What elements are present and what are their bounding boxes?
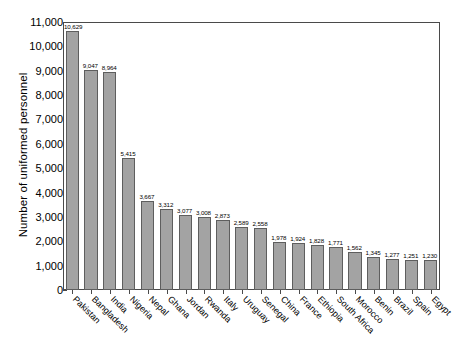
bar-value-label: 3,008 [196, 209, 211, 216]
bar[interactable] [424, 260, 437, 290]
bar-slot[interactable]: 2,873 [214, 22, 233, 290]
bar-slot[interactable]: 8,964 [101, 22, 120, 290]
bar-value-label: 3,667 [139, 193, 154, 200]
y-axis-tick-label: 4,000 [7, 187, 63, 199]
bar[interactable] [160, 209, 173, 290]
bar-value-label: 9,047 [83, 62, 98, 69]
bar-slot[interactable]: 1,978 [270, 22, 289, 290]
x-axis-category-label: Brazil [392, 294, 415, 317]
bar-slot[interactable]: 1,562 [346, 22, 365, 290]
x-axis-category-label-text: Brazil [392, 294, 415, 317]
bar-slot[interactable]: 3,077 [176, 22, 195, 290]
bar-slot[interactable]: 3,008 [195, 22, 214, 290]
bar-slot[interactable]: 1,230 [421, 22, 440, 290]
y-axis-tick-label: 7,000 [7, 113, 63, 125]
bar[interactable] [273, 242, 286, 290]
bar[interactable] [84, 70, 97, 290]
y-axis-tick-label: 6,000 [7, 138, 63, 150]
bar-slot[interactable]: 3,667 [138, 22, 157, 290]
x-axis-category-label: Spain [411, 294, 434, 317]
bar-value-label: 1,978 [271, 234, 286, 241]
y-axis-tick-label: 1,000 [7, 260, 63, 272]
bar-value-label: 10,629 [64, 23, 82, 30]
x-axis-category-labels: PakistanBangladeshIndiaNigeriaNepalGhana… [63, 294, 440, 352]
y-axis-tick-label: 2,000 [7, 235, 63, 247]
bar-value-label: 5,415 [121, 150, 136, 157]
bar[interactable] [141, 201, 154, 290]
bar-slot[interactable]: 1,924 [289, 22, 308, 290]
bar-chart: Number of uniformed personnel 01,0002,00… [0, 0, 458, 352]
y-axis-tick-label: 9,000 [7, 65, 63, 77]
bar-value-label: 2,873 [215, 212, 230, 219]
y-axis-tick-labels: 01,0002,0003,0004,0005,0006,0007,0008,00… [0, 0, 63, 352]
bar-slot[interactable]: 1,277 [383, 22, 402, 290]
bar-value-label: 2,558 [253, 220, 268, 227]
bar-value-label: 1,345 [366, 249, 381, 256]
bar[interactable] [103, 72, 116, 290]
y-axis-tick-label: 10,000 [7, 40, 63, 52]
bar-slot[interactable]: 9,047 [82, 22, 101, 290]
bar-slot[interactable]: 2,558 [252, 22, 271, 290]
y-axis-tick-label: 5,000 [7, 162, 63, 174]
bar-value-label: 1,828 [309, 237, 324, 244]
bar-slot[interactable]: 1,251 [402, 22, 421, 290]
bar-value-label: 1,924 [290, 235, 305, 242]
bar[interactable] [367, 257, 380, 290]
bar-value-label: 2,589 [234, 219, 249, 226]
bar-slot[interactable]: 1,828 [308, 22, 327, 290]
y-axis-tick-label: 0 [7, 284, 63, 296]
bar-value-label: 8,964 [102, 64, 117, 71]
bar[interactable] [292, 243, 305, 290]
bar[interactable] [311, 245, 324, 290]
bar-value-label: 3,077 [177, 207, 192, 214]
bar[interactable] [254, 228, 267, 290]
x-axis-category-label-text: Egypt [429, 294, 452, 317]
bar[interactable] [329, 247, 342, 290]
bars-group: 10,6299,0478,9645,4153,6673,3123,0773,00… [63, 22, 440, 290]
y-axis-tick-label: 3,000 [7, 211, 63, 223]
bar-slot[interactable]: 1,345 [365, 22, 384, 290]
x-axis-category-label-text: Spain [411, 294, 434, 317]
bar-slot[interactable]: 3,312 [157, 22, 176, 290]
y-axis-tick-label: 11,000 [7, 16, 63, 28]
bar[interactable] [235, 227, 248, 290]
bar[interactable] [198, 217, 211, 290]
bar[interactable] [405, 260, 418, 290]
bar-value-label: 1,251 [403, 252, 418, 259]
y-axis-tick-label: 8,000 [7, 89, 63, 101]
bar[interactable] [66, 31, 79, 290]
bar-slot[interactable]: 10,629 [63, 22, 82, 290]
bar[interactable] [216, 220, 229, 290]
bar[interactable] [386, 259, 399, 290]
bar[interactable] [348, 252, 361, 290]
bar[interactable] [179, 215, 192, 290]
bar-slot[interactable]: 1,771 [327, 22, 346, 290]
bar-value-label: 1,230 [422, 252, 437, 259]
bar-value-label: 1,562 [347, 244, 362, 251]
bar-slot[interactable]: 2,589 [233, 22, 252, 290]
bar-slot[interactable]: 5,415 [120, 22, 139, 290]
bar-value-label: 1,277 [384, 251, 399, 258]
bar[interactable] [122, 158, 135, 290]
x-axis-category-label: Egypt [429, 294, 452, 317]
bar-value-label: 3,312 [158, 201, 173, 208]
bar-value-label: 1,771 [328, 239, 343, 246]
